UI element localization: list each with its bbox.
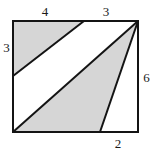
dimension-label-left: 3 <box>1 41 12 54</box>
dimension-label-bottom: 2 <box>111 137 125 149</box>
dimension-label-right: 6 <box>141 71 152 84</box>
dimension-label-top-left: 4 <box>38 5 52 18</box>
dimension-label-top-right: 3 <box>99 5 113 18</box>
figure-canvas <box>0 0 152 149</box>
geometry-figure: 4 3 3 6 2 <box>0 0 152 149</box>
